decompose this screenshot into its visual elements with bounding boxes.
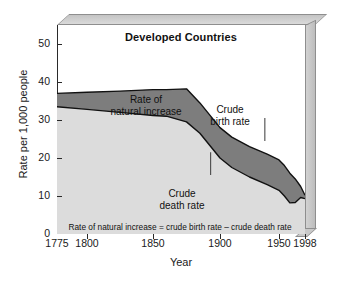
annotation-line-2: natural increase [96, 106, 196, 118]
annotation-line-1: Crude [145, 188, 219, 200]
x-tick-label: 1850 [129, 238, 177, 249]
y-tick-label: 40 [28, 76, 50, 87]
y-tick-label: 30 [28, 114, 50, 125]
annotation-line-1: Rate of [96, 94, 196, 106]
x-tick-mark [305, 234, 306, 239]
annotation-crude-birth-rate: Crude birth rate [193, 104, 267, 127]
y-tick-mark [57, 82, 62, 83]
frame-right-depth-panel [305, 20, 316, 234]
annotation-crude-death-rate: Crude death rate [145, 188, 219, 211]
x-tick-mark [153, 234, 154, 239]
y-tick-mark [57, 44, 62, 45]
chart-title: Developed Countries [57, 31, 305, 43]
chart-figure: Developed Countries Rate of natural incr… [0, 0, 339, 292]
x-axis-title: Year [57, 256, 305, 268]
y-tick-mark [57, 196, 62, 197]
annotation-rate-of-natural-increase: Rate of natural increase [96, 94, 196, 117]
x-tick-mark [87, 234, 88, 239]
x-tick-mark [279, 234, 280, 239]
x-tick-mark [220, 234, 221, 239]
y-tick-label: 20 [28, 152, 50, 163]
x-tick-label: 1998 [281, 238, 329, 249]
annotation-line-1: Crude [193, 104, 267, 116]
y-tick-mark [57, 120, 62, 121]
annotation-line-2: birth rate [193, 116, 267, 128]
annotation-line-2: death rate [145, 200, 219, 212]
y-tick-mark [57, 158, 62, 159]
y-tick-label: 10 [28, 190, 50, 201]
x-tick-label: 1900 [196, 238, 244, 249]
frame-top-bevel [57, 14, 327, 25]
x-tick-label: 1800 [63, 238, 111, 249]
footnote-equation: Rate of natural increase = crude birth r… [63, 222, 297, 232]
y-tick-label: 50 [28, 38, 50, 49]
